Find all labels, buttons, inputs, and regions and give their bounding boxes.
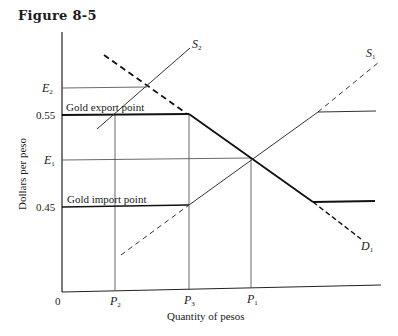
origin-label: 0	[55, 295, 61, 307]
x-axis	[62, 285, 381, 292]
x-tick-p1: P1	[246, 292, 258, 307]
s1-dashed-lower	[121, 205, 189, 255]
d1-dashed-lower	[313, 202, 361, 239]
y-tick-055: 0.55	[36, 109, 56, 121]
s2-label: S2	[192, 37, 202, 52]
y-tick-045: 0.45	[36, 201, 56, 213]
x-axis-title: Quantity of pesos	[167, 310, 245, 322]
gold-import-line	[62, 205, 189, 207]
x-tick-p2: P2	[109, 294, 121, 309]
s1-dashed-upper	[318, 62, 379, 112]
e1-guide-line	[62, 158, 251, 160]
s1-label: S1	[366, 46, 376, 61]
y-tick-e2: E2	[41, 81, 53, 96]
s1-ceiling-line	[318, 111, 376, 112]
gold-import-label: Gold import point	[67, 193, 146, 205]
exchange-rate-diagram: S2 S1 D1 Gold export point Gold import p…	[0, 0, 398, 336]
s2-line	[97, 48, 190, 129]
gold-export-label: Gold export point	[66, 101, 144, 113]
gold-export-line	[62, 114, 189, 115]
x-tick-p3: P3	[183, 293, 195, 308]
d1-floor-line	[313, 201, 375, 202]
e2-guide-line	[62, 87, 147, 88]
y-tick-e1: E1	[43, 153, 55, 168]
y-axis-title: Dollars per peso	[16, 137, 28, 210]
d1-label: D1	[360, 239, 374, 254]
